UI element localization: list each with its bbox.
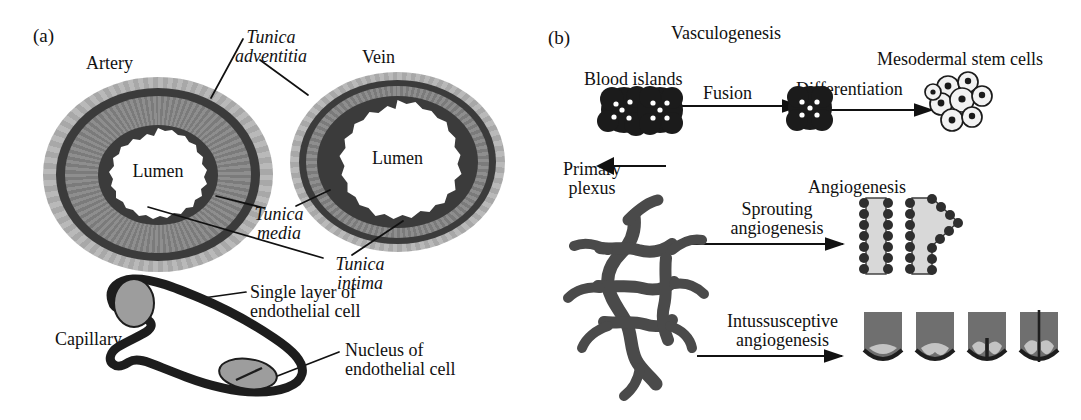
vein-lumen-label: Lumen <box>290 148 505 169</box>
nucleus-label: Nucleus of endothelial cell <box>345 341 455 380</box>
intussusception-stage-1 <box>864 312 902 359</box>
sprouting-line1: Sprouting <box>712 200 842 219</box>
vasculogenesis-title: Vasculogenesis <box>671 24 781 43</box>
intussusceptive-line2: angiogenesis <box>700 331 865 350</box>
tunica-media-label: Tunica media <box>238 205 320 244</box>
capillary-label: Capillary <box>55 330 122 349</box>
panel-b-tag: (b) <box>548 28 570 49</box>
intussusceptive-angiogenesis-label: Intussusceptive angiogenesis <box>700 312 865 351</box>
tunica-intima-line1: Tunica <box>320 255 400 274</box>
intussusception-stage-4 <box>1020 310 1058 362</box>
mesodermal-stem-cells-label: Mesodermal stem cells <box>877 50 1043 69</box>
primary-plexus-line2: plexus <box>553 179 631 198</box>
tunica-media-line1: Tunica <box>238 205 320 224</box>
figure-root: (a) Artery Vein Lumen Lumen <box>0 0 1081 420</box>
primary-plexus-label: Primary plexus <box>553 160 631 199</box>
artery-title: Artery <box>86 54 133 73</box>
differentiation-label: Differentiation <box>796 80 903 99</box>
angiogenesis-title: Angiogenesis <box>808 178 906 197</box>
tunica-adventitia-line1: Tunica <box>223 28 319 47</box>
fusion-label: Fusion <box>703 84 752 103</box>
single-layer-line1: Single layer of <box>250 283 360 302</box>
sprouting-line2: angiogenesis <box>712 219 842 238</box>
tunica-media-line2: media <box>238 224 320 243</box>
intussusception-stage-2 <box>916 312 954 359</box>
blood-islands-label: Blood islands <box>584 70 683 89</box>
nucleus-line2: endothelial cell <box>345 360 455 379</box>
vein-title: Vein <box>362 48 395 67</box>
primary-plexus-line1: Primary <box>553 160 631 179</box>
intussusception-stage-3 <box>968 312 1006 360</box>
nucleus-line1: Nucleus of <box>345 341 455 360</box>
sprout-vessel-branching <box>905 194 963 275</box>
intussusceptive-line1: Intussusceptive <box>700 312 865 331</box>
sprout-vessel-straight <box>859 198 893 274</box>
tunica-adventitia-line2: adventitia <box>223 47 319 66</box>
sprouting-angiogenesis-label: Sprouting angiogenesis <box>712 200 842 239</box>
single-layer-label: Single layer of endothelial cell <box>250 283 360 322</box>
artery-lumen-label: Lumen <box>43 161 273 182</box>
tunica-adventitia-label: Tunica adventitia <box>223 28 319 67</box>
single-layer-line2: endothelial cell <box>250 302 360 321</box>
vein-cross-section: Lumen <box>290 72 505 252</box>
panel-a-tag: (a) <box>33 26 54 47</box>
